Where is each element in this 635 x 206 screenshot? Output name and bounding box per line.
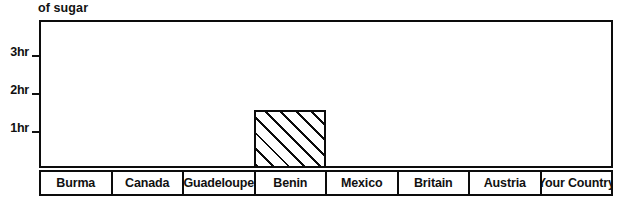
category-label: Austria bbox=[484, 176, 526, 190]
y-tick-label-1hr: 1hr bbox=[10, 121, 29, 135]
category-label-strip: BurmaCanadaGuadeloupeBeninMexicoBritainA… bbox=[39, 170, 613, 196]
category-label: Benin bbox=[273, 176, 307, 190]
y-tick-label-3hr: 3hr bbox=[10, 45, 29, 59]
y-tick-2hr: 2hr bbox=[10, 83, 39, 97]
bar-benin[interactable] bbox=[254, 110, 326, 168]
category-cell[interactable]: Canada bbox=[113, 172, 185, 194]
chart-screenshot: of sugar 3hr 2hr 1hr BurmaCanadaGuadelou… bbox=[0, 0, 635, 206]
category-cell[interactable]: Your Country bbox=[542, 172, 612, 194]
bars-layer bbox=[39, 20, 613, 168]
y-tick-mark-3hr bbox=[32, 55, 39, 57]
axis-caption: of sugar bbox=[38, 1, 88, 15]
y-axis: 3hr 2hr 1hr bbox=[0, 0, 39, 206]
category-cell[interactable]: Benin bbox=[256, 172, 328, 194]
y-tick-mark-1hr bbox=[32, 131, 39, 133]
category-label: Your Country bbox=[542, 176, 612, 190]
category-cell[interactable]: Burma bbox=[41, 172, 113, 194]
y-tick-mark-2hr bbox=[32, 93, 39, 95]
category-label: Britain bbox=[414, 176, 453, 190]
category-cell[interactable]: Britain bbox=[399, 172, 471, 194]
category-label: Mexico bbox=[341, 176, 382, 190]
category-cell[interactable]: Austria bbox=[470, 172, 542, 194]
category-cell[interactable]: Guadeloupe bbox=[184, 172, 256, 194]
y-tick-3hr: 3hr bbox=[10, 45, 39, 59]
y-tick-1hr: 1hr bbox=[10, 121, 39, 135]
y-tick-label-2hr: 2hr bbox=[10, 83, 29, 97]
category-label: Burma bbox=[56, 176, 95, 190]
category-label: Canada bbox=[125, 176, 169, 190]
category-label: Guadeloupe bbox=[184, 176, 254, 190]
category-cell[interactable]: Mexico bbox=[327, 172, 399, 194]
